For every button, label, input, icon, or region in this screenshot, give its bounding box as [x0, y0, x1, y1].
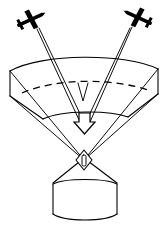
swath-outer-arc — [10, 57, 158, 71]
swath-left-lower-edge — [10, 96, 43, 119]
swath-centerline — [22, 81, 148, 93]
right-beam-ray-outer — [90, 27, 132, 122]
beam-intersection-wedge — [78, 83, 88, 101]
right-aircraft — [119, 2, 156, 33]
beam-v-notch — [78, 83, 88, 101]
left-beam-ray-inner — [39, 28, 84, 122]
swath-left-radial — [10, 71, 84, 160]
right-aircraft-wings — [131, 7, 145, 28]
left-aircraft-wings — [24, 9, 38, 30]
figure-root — [0, 0, 168, 227]
ground-station-cylinder — [53, 180, 117, 221]
right-beam-ray-inner — [86, 28, 130, 122]
curved-swath-band — [10, 57, 158, 160]
left-beam — [37, 28, 84, 122]
cylinder-top-arc — [53, 180, 117, 185]
swath-right-lower-radial — [84, 94, 158, 160]
left-aircraft — [13, 4, 50, 35]
swath-right-radial — [84, 69, 158, 160]
left-beam-ray-outer — [37, 29, 80, 122]
cylinder-bottom-arc — [53, 214, 117, 220]
right-beam — [86, 27, 132, 122]
diagram-canvas — [0, 0, 168, 227]
